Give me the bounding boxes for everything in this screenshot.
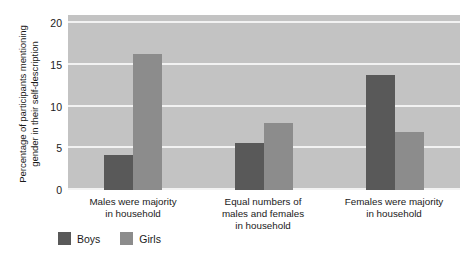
legend-label-boys: Boys <box>77 233 100 245</box>
y-tick-15: 15 <box>20 59 62 71</box>
chart-legend: Boys Girls <box>58 232 161 245</box>
plot-area <box>68 15 460 190</box>
category-label-line: Males were majority <box>68 196 198 208</box>
bar-males-majority-boys <box>104 155 133 190</box>
y-axis-title-line-1: Percentage of participants mentioning <box>16 25 29 182</box>
legend-swatch-girls-icon <box>120 232 133 245</box>
legend-item-boys: Boys <box>58 232 100 245</box>
category-label-line: in household <box>68 208 198 220</box>
category-label-females-majority: Females were majority in household <box>328 196 460 220</box>
y-tick-0: 0 <box>20 184 62 196</box>
y-tick-5: 5 <box>20 142 62 154</box>
y-axis-title-line-2: gender in their self-description <box>29 41 42 166</box>
category-label-line: males and females <box>198 208 328 220</box>
category-label-equal-numbers: Equal numbers of males and females in ho… <box>198 196 328 233</box>
y-tick-10: 10 <box>20 101 62 113</box>
category-label-males-majority: Males were majority in household <box>68 196 198 220</box>
category-label-line: in household <box>198 220 328 232</box>
gridline-15 <box>68 63 460 65</box>
bar-females-majority-boys <box>366 75 395 190</box>
legend-label-girls: Girls <box>139 233 161 245</box>
y-axis-title: Percentage of participants mentioning ge… <box>12 2 46 207</box>
bar-females-majority-girls <box>395 132 424 190</box>
legend-item-girls: Girls <box>120 232 161 245</box>
category-label-line: in household <box>328 208 460 220</box>
gridline-20 <box>68 21 460 23</box>
category-label-line: Females were majority <box>328 196 460 208</box>
bar-males-majority-girls <box>133 54 162 190</box>
y-tick-20: 20 <box>20 17 62 29</box>
gridline-10 <box>68 105 460 107</box>
legend-swatch-boys-icon <box>58 232 71 245</box>
bar-chart: Percentage of participants mentioning ge… <box>0 0 470 260</box>
category-label-line: Equal numbers of <box>198 196 328 208</box>
bar-equal-numbers-girls <box>264 123 293 190</box>
bar-equal-numbers-boys <box>235 143 264 191</box>
